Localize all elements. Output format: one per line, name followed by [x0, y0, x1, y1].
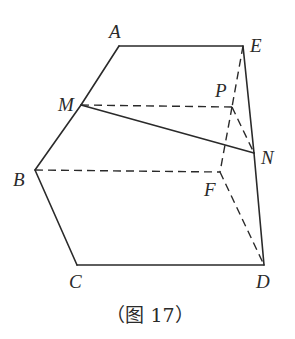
label-C: C [69, 271, 82, 292]
label-B: B [13, 169, 25, 190]
label-E: E [249, 35, 262, 56]
edge-MP [81, 105, 232, 107]
vertex-labels: A E M P N B F C D [13, 21, 275, 292]
label-D: D [255, 271, 270, 292]
label-A: A [107, 21, 121, 42]
label-P: P [214, 80, 227, 101]
label-N: N [260, 147, 275, 168]
dashed-edges [35, 46, 264, 265]
edge-AM [81, 46, 119, 105]
edge-BC [35, 170, 77, 265]
geometry-figure: A E M P N B F C D （图 17） [0, 0, 295, 339]
label-F: F [203, 179, 216, 200]
edge-EP [232, 46, 243, 107]
edge-MN [81, 105, 254, 153]
label-M: M [57, 94, 75, 115]
edge-PF [220, 107, 232, 172]
edge-BF [35, 170, 220, 172]
figure-caption: （图 17） [106, 304, 193, 326]
solid-edges [35, 46, 264, 265]
edge-EN [243, 46, 254, 153]
